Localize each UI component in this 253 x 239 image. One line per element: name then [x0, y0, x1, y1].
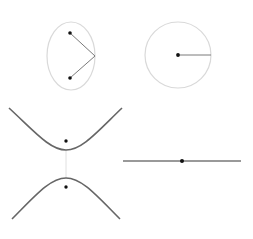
line-figure — [123, 159, 241, 163]
hyperbola-focus-upper — [64, 139, 67, 142]
hyperbola-upper-branch — [9, 108, 122, 150]
line-point — [180, 159, 184, 163]
ellipse-figure — [47, 22, 95, 90]
hyperbola-focus-lower — [64, 185, 67, 188]
hyperbola-lower-branch — [12, 178, 120, 219]
circle-center-point — [176, 53, 180, 57]
circle-figure — [145, 22, 211, 88]
ellipse-focus-upper — [68, 31, 72, 35]
conic-sections-diagram — [0, 0, 253, 239]
hyperbola-figure — [9, 108, 122, 219]
ellipse-focus-lower — [68, 76, 72, 80]
